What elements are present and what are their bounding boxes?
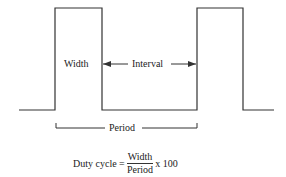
formula-lhs: Duty cycle = (73, 158, 125, 169)
interval-label: Interval (131, 59, 164, 69)
formula-denominator: Period (127, 164, 153, 175)
duty-cycle-formula: Duty cycle = Width Period x 100 (73, 151, 178, 175)
formula-fraction: Width Period (127, 152, 154, 175)
formula-numerator: Width (127, 152, 154, 164)
period-label: Period (108, 123, 136, 133)
width-label: Width (63, 59, 90, 69)
period-bracket-left (56, 123, 105, 128)
formula-rhs: x 100 (155, 158, 178, 169)
pulse-waveform-diagram: Width Interval Period Duty cycle = Width… (0, 0, 286, 177)
period-bracket-right (142, 123, 197, 128)
